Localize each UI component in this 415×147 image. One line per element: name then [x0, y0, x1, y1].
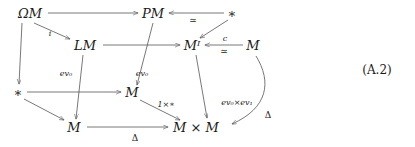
node-m-mid: M [125, 86, 138, 99]
edge-label-delta-right: Δ [265, 111, 272, 120]
edge-label-delta-bottom: Δ [132, 134, 139, 143]
arrow-m-right-to-m-times-m [232, 56, 265, 124]
node-omega-m: ΩM [18, 7, 42, 20]
edge-label-ev0-times-ev1: ev₀×ev₁ [221, 99, 253, 107]
edge-label-ev0-mid: ev₀ [136, 70, 148, 78]
node-m-bottom: M [67, 121, 80, 134]
node-m-right: M [246, 39, 259, 52]
edge-label-ev0-left: ev₀ [60, 70, 72, 78]
arrow-omega-m-to-lm [34, 23, 70, 39]
node-star-left: ∗ [14, 86, 23, 99]
node-m-i: Mᴵ [184, 39, 201, 52]
figure-commutative-diagram: ΩM PM ∗ LM Mᴵ M ∗ M M M × M i ≃ c ≃ ev₀ … [0, 0, 415, 147]
edge-label-c: c [223, 35, 227, 43]
edge-label-simeq-top: ≃ [189, 16, 197, 25]
node-star-top: ∗ [228, 7, 237, 20]
arrow-mi-to-m-times-m [196, 55, 207, 118]
edge-label-simeq-c: ≃ [220, 47, 228, 56]
arrow-omega-m-to-star-left [19, 23, 22, 84]
edge-label-i: i [49, 30, 52, 38]
node-m-times-m: M × M [173, 121, 219, 134]
arrow-star-left-to-m-bottom [24, 99, 64, 120]
node-lm: LM [74, 39, 96, 52]
edge-label-one-times-star: 1×∗ [157, 101, 174, 109]
node-pm: PM [142, 7, 164, 20]
equation-number: (A.2) [362, 63, 391, 77]
arrow-lm-to-m-bottom [76, 55, 83, 119]
